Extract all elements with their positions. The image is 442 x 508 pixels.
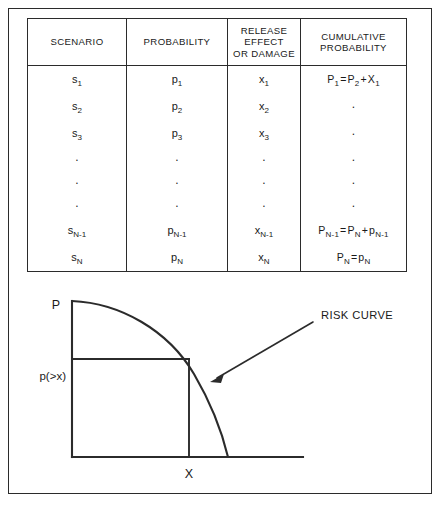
- risk-curve-chart: P X p(>x) RISK CURVE: [8, 282, 432, 494]
- formula-sub-2: N: [364, 257, 370, 266]
- formula-term-1: P: [318, 224, 325, 236]
- release-subscript: 3: [265, 134, 269, 143]
- cell-probability: .: [127, 148, 228, 171]
- risk-curve-annotation-label: RISK CURVE: [321, 309, 393, 321]
- cell-probability: p1: [127, 66, 228, 94]
- risk-curve-arrowhead: [210, 374, 224, 383]
- risk-scenario-table: SCENARIO PROBABILITY RELEASE EFFECT OR D…: [27, 18, 407, 272]
- cell-release-effect: x1: [228, 66, 301, 94]
- cell-probability: .: [127, 194, 228, 217]
- x-axis-label: X: [185, 467, 194, 481]
- cell-probability: pN: [127, 244, 228, 272]
- probability-subscript: N-1: [174, 230, 187, 239]
- column-header-cumulative-line-2: PROBABILITY: [304, 42, 403, 54]
- ellipsis-dot: .: [262, 198, 265, 208]
- ellipsis-dot: .: [262, 175, 265, 185]
- cell-scenario: .: [28, 148, 127, 171]
- table-ellipsis-row: . . . .: [28, 148, 407, 171]
- y-axis-label: P: [52, 298, 60, 312]
- ellipsis-dot: .: [175, 198, 178, 208]
- cell-probability: p2: [127, 93, 228, 120]
- probability-subscript: 2: [178, 106, 182, 115]
- figure-root: SCENARIO PROBABILITY RELEASE EFFECT OR D…: [0, 0, 442, 508]
- formula-equals: =: [339, 73, 347, 85]
- column-header-release-line-2: EFFECT: [231, 36, 297, 48]
- table-row: sN-1 pN-1 xN-1 PN-1=PN+pN-1: [28, 217, 407, 244]
- cell-probability: .: [127, 171, 228, 194]
- formula-sub-3: N-1: [375, 230, 389, 239]
- cell-release-effect: .: [228, 148, 301, 171]
- scenario-subscript: N: [77, 257, 83, 266]
- ellipsis-dot: .: [352, 99, 355, 109]
- column-header-cumulative-line-1: CUMULATIVE: [304, 31, 403, 43]
- release-subscript: 1: [265, 79, 269, 88]
- probability-subscript: 3: [178, 134, 182, 143]
- table-row: s3 p3 x3 .: [28, 120, 407, 147]
- cell-scenario: s2: [28, 93, 127, 120]
- risk-curve-arrow-line: [217, 322, 313, 378]
- column-header-probability: PROBABILITY: [127, 19, 228, 66]
- formula-sub-3: 1: [375, 79, 380, 88]
- column-header-release-effect: RELEASE EFFECT OR DAMAGE: [228, 19, 301, 66]
- table-ellipsis-row: . . . .: [28, 194, 407, 217]
- formula-plus: +: [359, 73, 367, 85]
- cell-release-effect: x2: [228, 93, 301, 120]
- cell-release-effect: .: [228, 171, 301, 194]
- cell-cumulative-probability: .: [301, 93, 407, 120]
- formula-term-1: P: [337, 251, 344, 263]
- ellipsis-dot: .: [75, 175, 78, 185]
- scenario-subscript: N-1: [73, 230, 86, 239]
- ellipsis-dot: .: [175, 152, 178, 162]
- ellipsis-dot: .: [262, 152, 265, 162]
- cell-cumulative-probability: .: [301, 171, 407, 194]
- table-header-row: SCENARIO PROBABILITY RELEASE EFFECT OR D…: [28, 19, 407, 66]
- cell-cumulative-probability: .: [301, 120, 407, 147]
- release-subscript: 2: [265, 106, 269, 115]
- table-row: s2 p2 x2 .: [28, 93, 407, 120]
- column-header-scenario-line-1: SCENARIO: [31, 36, 123, 48]
- column-header-scenario: SCENARIO: [28, 19, 127, 66]
- cell-probability: p3: [127, 120, 228, 147]
- cell-scenario: s1: [28, 66, 127, 94]
- cumulative-formula: PN-1=PN+pN-1: [318, 224, 388, 236]
- cell-release-effect: xN: [228, 244, 301, 272]
- formula-plus: +: [361, 224, 369, 236]
- column-header-cumulative-probability: CUMULATIVE PROBABILITY: [301, 19, 407, 66]
- cumulative-formula: PN=pN: [337, 251, 371, 263]
- scenario-subscript: 1: [78, 79, 82, 88]
- cell-scenario: s3: [28, 120, 127, 147]
- cell-probability: pN-1: [127, 217, 228, 244]
- risk-curve-path: [72, 301, 228, 457]
- formula-sub-1: N: [344, 257, 350, 266]
- cell-scenario: .: [28, 194, 127, 217]
- table-row: s1 p1 x1 P1=P2+X1: [28, 66, 407, 94]
- table-ellipsis-row: . . . .: [28, 171, 407, 194]
- table-header: SCENARIO PROBABILITY RELEASE EFFECT OR D…: [28, 19, 407, 66]
- column-header-release-line-3: OR DAMAGE: [231, 48, 297, 60]
- cell-scenario: .: [28, 171, 127, 194]
- cell-cumulative-probability: PN=pN: [301, 244, 407, 272]
- scenario-subscript: 3: [78, 134, 82, 143]
- ellipsis-dot: .: [175, 175, 178, 185]
- scenario-subscript: 2: [78, 106, 82, 115]
- probability-subscript: 1: [178, 79, 182, 88]
- formula-term-2: P: [348, 73, 355, 85]
- ellipsis-dot: .: [352, 126, 355, 136]
- cell-release-effect: .: [228, 194, 301, 217]
- column-header-release-line-1: RELEASE: [231, 25, 297, 37]
- column-header-probability-line-1: PROBABILITY: [130, 36, 224, 48]
- formula-sub-1: N-1: [326, 230, 340, 239]
- table-body: s1 p1 x1 P1=P2+X1 s2 p2: [28, 66, 407, 272]
- ellipsis-dot: .: [75, 198, 78, 208]
- release-subscript: N-1: [260, 230, 273, 239]
- formula-term-2: P: [347, 224, 354, 236]
- cell-cumulative-probability: PN-1=PN+pN-1: [301, 217, 407, 244]
- probability-axis-label: p(>x): [39, 370, 66, 382]
- cumulative-formula: P1=P2+X1: [327, 73, 380, 85]
- probability-subscript: N: [177, 257, 183, 266]
- cell-cumulative-probability: .: [301, 194, 407, 217]
- cell-cumulative-probability: .: [301, 148, 407, 171]
- formula-sub-2: N: [355, 230, 361, 239]
- cell-scenario: sN-1: [28, 217, 127, 244]
- cell-release-effect: xN-1: [228, 217, 301, 244]
